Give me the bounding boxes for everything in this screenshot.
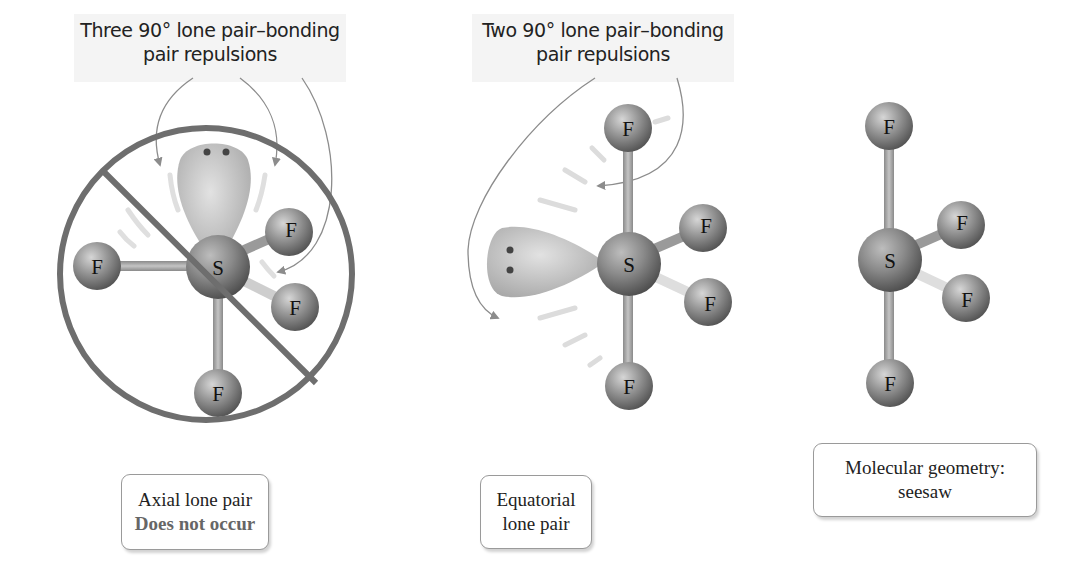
atom-label: S	[212, 256, 224, 280]
atom-label: S	[884, 249, 896, 273]
seesaw-molecule: F F S F F	[858, 102, 990, 407]
atom-label: F	[961, 288, 973, 312]
atom-label: F	[883, 115, 895, 139]
label-line: seesaw	[814, 480, 1036, 504]
lone-pair-electron	[223, 149, 230, 156]
lone-pair-electron	[204, 149, 211, 156]
label-line: Equatorial	[481, 488, 591, 512]
atom-label: F	[285, 218, 297, 242]
label-line: Axial lone pair	[122, 488, 268, 512]
atom-label: F	[884, 372, 896, 396]
atom-label: F	[91, 255, 103, 279]
equatorial-molecule: F F S F F	[468, 78, 732, 410]
axial-molecule: F F S F F	[60, 78, 352, 420]
atom-label: F	[212, 382, 224, 406]
label-axial: Axial lone pair Does not occur	[121, 474, 269, 550]
label-geometry: Molecular geometry: seesaw	[813, 443, 1037, 517]
atom-label: F	[704, 292, 716, 316]
label-warning: Does not occur	[122, 512, 268, 536]
lone-pair-electron	[507, 247, 514, 254]
lone-pair-lobe	[487, 227, 605, 298]
atom-label: F	[700, 214, 712, 238]
atom-label: F	[289, 296, 301, 320]
label-line: Molecular geometry:	[814, 456, 1036, 480]
repulsion-arrow	[240, 78, 277, 165]
atom-label: F	[623, 375, 635, 399]
atom-label: F	[622, 117, 634, 141]
atom-label: F	[956, 211, 968, 235]
label-equatorial: Equatorial lone pair	[480, 475, 592, 549]
lone-pair-electron	[507, 267, 514, 274]
atom-label: S	[623, 253, 635, 277]
label-line: lone pair	[481, 512, 591, 536]
